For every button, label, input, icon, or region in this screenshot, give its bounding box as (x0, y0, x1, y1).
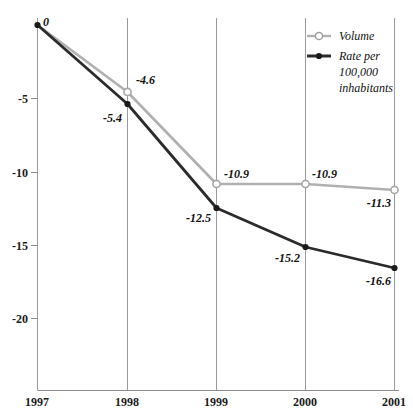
line-chart: -5 -10 -15 -20 1997 1998 1999 2000 2001 … (0, 0, 413, 419)
volume-marker-2001 (391, 186, 398, 193)
x-tick-label-2001: 2001 (382, 395, 406, 409)
legend-label-volume: Volume (339, 29, 375, 43)
volume-marker-2000 (302, 180, 309, 187)
x-tick-label-2000: 2000 (293, 395, 317, 409)
rate-marker-2000 (302, 244, 308, 250)
data-label-rate-1998: -5.4 (103, 111, 122, 125)
data-label-origin: 0 (43, 15, 49, 29)
volume-marker-1998 (124, 88, 131, 95)
data-label-volume-2000: -10.9 (312, 167, 337, 181)
y-tick-label-minus15: -15 (12, 239, 28, 253)
y-axis-ticks (31, 99, 38, 319)
x-tick-label-1998: 1998 (115, 395, 139, 409)
chart-canvas: -5 -10 -15 -20 1997 1998 1999 2000 2001 … (0, 0, 413, 419)
rate-marker-1999 (213, 205, 219, 211)
y-tick-label-minus20: -20 (12, 312, 28, 326)
legend-label-rate-line1: Rate per (338, 49, 380, 63)
legend-marker-rate (316, 53, 322, 59)
legend-label-rate-line3: inhabitants (339, 81, 393, 95)
data-label-rate-2000: -15.2 (275, 251, 300, 265)
data-label-rate-1999: -12.5 (186, 211, 211, 225)
x-tick-label-1997: 1997 (25, 395, 49, 409)
y-tick-label-minus10: -10 (12, 166, 28, 180)
rate-marker-1997 (34, 22, 40, 28)
rate-marker-1998 (124, 101, 130, 107)
data-label-rate-2001: -16.6 (366, 274, 391, 288)
data-label-volume-1998: -4.6 (136, 73, 155, 87)
legend-marker-volume (315, 32, 322, 39)
data-label-volume-1999: -10.9 (224, 167, 249, 181)
volume-marker-1999 (213, 180, 220, 187)
rate-marker-2001 (391, 265, 397, 271)
data-label-volume-2001: -11.3 (367, 196, 391, 210)
x-tick-label-1999: 1999 (204, 395, 228, 409)
legend-label-rate-line2: 100,000 (339, 65, 378, 79)
chart-legend: Volume Rate per 100,000 inhabitants (307, 29, 393, 95)
y-tick-label-minus5: -5 (18, 92, 28, 106)
